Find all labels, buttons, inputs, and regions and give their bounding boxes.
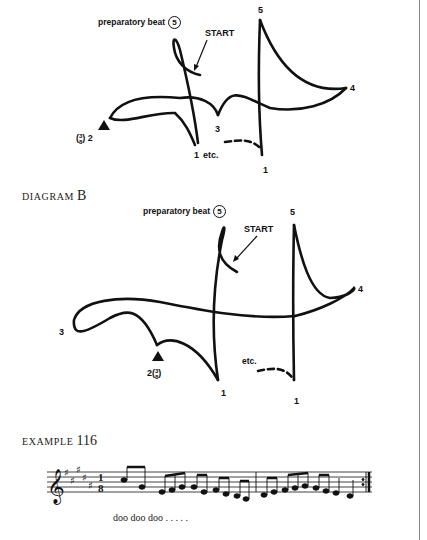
prep-beat-text: preparatory beat <box>143 206 210 216</box>
beat-2-label-b: 2(38) <box>147 368 161 380</box>
prep-beat-text: preparatory beat <box>98 17 165 27</box>
circled-beat-number: 5 <box>213 205 226 218</box>
prep-beat-label-b: preparatory beat5 <box>143 205 226 218</box>
music-staff: 𝄞 ♯♯♯♯♯ 1 8 <box>0 460 427 520</box>
svg-text:𝄞: 𝄞 <box>47 468 65 505</box>
etc-label: etc. <box>203 150 219 160</box>
fraction-denominator: 8 <box>79 139 82 145</box>
heading-number: 116 <box>77 433 97 448</box>
beat-5-label-b: 5 <box>290 207 295 217</box>
beat-1-label: 1 <box>194 150 199 160</box>
beat-1-label-b: 1 <box>221 388 226 398</box>
music-example: 𝄞 ♯♯♯♯♯ 1 8 <box>0 460 427 520</box>
beat-3-label-b: 3 <box>59 327 64 337</box>
beat-2-number: 2 <box>88 133 93 143</box>
time-fraction: 38 <box>79 133 82 145</box>
start-label-b: START <box>244 224 273 234</box>
svg-text:8: 8 <box>98 482 104 494</box>
beat-4-label: 4 <box>350 83 355 93</box>
svg-text:♯: ♯ <box>88 480 93 491</box>
etc-label-b: etc. <box>242 356 257 366</box>
svg-text:♯: ♯ <box>82 472 87 483</box>
heading-word: EXAMPLE <box>22 436 73 447</box>
beat-1-label-b-second: 1 <box>294 396 299 406</box>
svg-text:♯: ♯ <box>70 475 75 486</box>
circled-beat-number: 5 <box>168 16 181 29</box>
beat-5-label: 5 <box>258 5 263 15</box>
beat-2-number: 2 <box>147 368 152 378</box>
example-heading: EXAMPLE 116 <box>22 433 97 449</box>
diagram-b: preparatory beat5 START 5 4 3 1 1 etc. 2… <box>0 180 427 410</box>
prep-beat-label: preparatory beat5 <box>98 16 181 29</box>
svg-text:♯: ♯ <box>64 467 69 478</box>
start-label: START <box>205 28 234 38</box>
time-fraction: 38 <box>155 368 158 380</box>
lyric-text: doo doo doo . . . . . <box>113 512 188 523</box>
beat-1-label-second: 1 <box>263 165 268 175</box>
beat-2-label: (38) 2 <box>76 133 93 145</box>
beat-3-label: 3 <box>215 124 220 134</box>
svg-text:♯: ♯ <box>76 464 81 475</box>
diagram-a: preparatory beat5 START 5 4 3 1 1 etc. (… <box>0 0 427 180</box>
beat-4-label-b: 4 <box>358 284 363 294</box>
fraction-denominator: 8 <box>155 374 158 380</box>
